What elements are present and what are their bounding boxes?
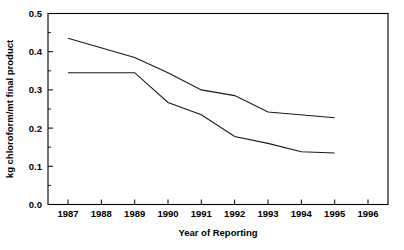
upper-series <box>68 38 335 117</box>
y-tick-label: 0.5 <box>29 8 43 19</box>
x-tick-label: 1988 <box>91 208 112 219</box>
y-tick-label: 0.3 <box>29 84 42 95</box>
x-tick-label: 1990 <box>157 208 178 219</box>
y-tick-label: 0.0 <box>29 199 42 210</box>
lower-series <box>68 73 335 153</box>
plot-frame <box>48 14 388 205</box>
x-tick-label: 1991 <box>191 208 213 219</box>
x-tick-label: 1996 <box>357 208 378 219</box>
x-tick-label: 1992 <box>224 208 245 219</box>
x-axis-tick-labels: 1987198819891990199119921993199419951996 <box>57 208 378 219</box>
y-axis-tick-labels: 0.00.10.20.30.40.5 <box>29 8 43 210</box>
y-tick-label: 0.4 <box>29 46 43 57</box>
x-tick-label: 1995 <box>324 208 346 219</box>
axes-frame <box>48 14 388 205</box>
data-series-group <box>68 38 335 153</box>
x-axis-major-ticks <box>68 200 368 205</box>
y-axis-title: kg chloroform/mt final product <box>4 39 15 178</box>
x-tick-label: 1993 <box>257 208 278 219</box>
x-tick-label: 1987 <box>57 208 78 219</box>
line-chart: 0.00.10.20.30.40.5 198719881989199019911… <box>0 0 404 250</box>
x-tick-label: 1989 <box>124 208 145 219</box>
chart-container: 0.00.10.20.30.40.5 198719881989199019911… <box>0 0 404 250</box>
y-tick-label: 0.2 <box>29 123 42 134</box>
x-axis-title: Year of Reporting <box>178 227 257 238</box>
x-tick-label: 1994 <box>291 208 313 219</box>
y-tick-label: 0.1 <box>29 161 43 172</box>
